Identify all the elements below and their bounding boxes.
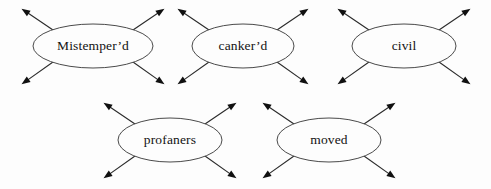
arrowhead-northeast bbox=[461, 9, 470, 17]
node-civil[interactable]: civil bbox=[352, 24, 456, 68]
arrowhead-northeast bbox=[299, 9, 308, 17]
diagram-canvas: Mistemper’dcanker’dcivilprofanersmoved bbox=[0, 0, 491, 189]
arrowhead-southwest bbox=[178, 77, 187, 85]
edge-line-southwest bbox=[109, 156, 135, 174]
node-label: Mistemper’d bbox=[57, 38, 129, 53]
edge-line-northwest bbox=[269, 107, 294, 124]
arrowhead-northwest bbox=[104, 103, 113, 111]
arrowhead-northwest bbox=[22, 9, 31, 17]
node-label: civil bbox=[392, 38, 417, 53]
edge-line-southwest bbox=[343, 62, 369, 80]
edge-line-northwest bbox=[28, 13, 53, 30]
node-mistemperd[interactable]: Mistemper’d bbox=[33, 24, 153, 68]
arrowhead-southeast bbox=[386, 171, 395, 179]
arrowhead-northeast bbox=[386, 103, 395, 111]
radial-arrow-diagram: Mistemper’dcanker’dcivilprofanersmoved bbox=[0, 0, 491, 189]
edge-line-northeast bbox=[364, 107, 389, 124]
node-label: moved bbox=[310, 132, 348, 147]
edge-line-southeast bbox=[277, 62, 303, 80]
edge-line-northwest bbox=[110, 107, 135, 124]
node-cankerd[interactable]: canker’d bbox=[192, 24, 294, 68]
edge-line-southwest bbox=[183, 62, 209, 80]
edge-line-northeast bbox=[133, 13, 158, 30]
arrowhead-southeast bbox=[461, 77, 470, 85]
nodes-layer: Mistemper’dcanker’dcivilprofanersmoved bbox=[33, 24, 456, 162]
arrowhead-southeast bbox=[155, 77, 164, 85]
node-label: canker’d bbox=[219, 38, 268, 53]
arrowhead-northeast bbox=[155, 9, 164, 17]
edge-line-northeast bbox=[277, 13, 302, 30]
node-label: profaners bbox=[144, 132, 196, 147]
node-profaners[interactable]: profaners bbox=[118, 118, 222, 162]
arrowhead-southwest bbox=[263, 171, 272, 179]
edge-line-southeast bbox=[205, 156, 231, 174]
node-moved[interactable]: moved bbox=[277, 118, 381, 162]
edge-line-southeast bbox=[133, 62, 159, 80]
arrowhead-northeast bbox=[227, 103, 236, 111]
edge-line-southwest bbox=[27, 62, 53, 80]
edge-line-northeast bbox=[205, 107, 230, 124]
edge-line-northeast bbox=[439, 13, 464, 30]
arrowhead-northwest bbox=[263, 103, 272, 111]
arrowhead-southwest bbox=[338, 77, 347, 85]
edge-line-northwest bbox=[344, 13, 369, 30]
edge-line-southeast bbox=[439, 62, 465, 80]
arrowhead-southwest bbox=[104, 171, 113, 179]
arrowhead-southeast bbox=[299, 77, 308, 85]
edge-line-northwest bbox=[184, 13, 209, 30]
edge-line-southwest bbox=[268, 156, 294, 174]
edge-line-southeast bbox=[364, 156, 390, 174]
arrowhead-northwest bbox=[338, 9, 347, 17]
arrowhead-southwest bbox=[22, 77, 31, 85]
arrowhead-southeast bbox=[227, 171, 236, 179]
arrowhead-northwest bbox=[178, 9, 187, 17]
